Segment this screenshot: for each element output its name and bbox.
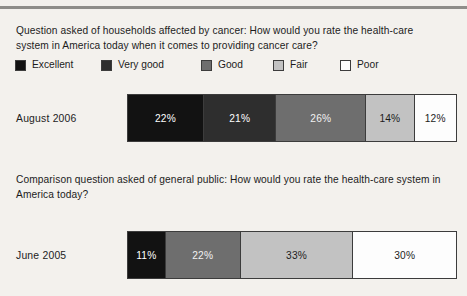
- legend-swatch-good-icon: [201, 60, 212, 71]
- top-divider-rule: [0, 6, 467, 9]
- legend-label-good: Good: [218, 59, 243, 71]
- bar-segment-value: 14%: [379, 113, 400, 124]
- bar-segment-good: 26%: [276, 95, 366, 141]
- row-label-august-2006: August 2006: [16, 94, 77, 142]
- chart-row-june-2005: June 2005 11%22%33%30%: [0, 231, 467, 279]
- legend-item-excellent: Excellent: [15, 59, 73, 71]
- bar-segment-fair: 33%: [241, 232, 354, 278]
- bar-segment-fair: 14%: [366, 95, 414, 141]
- legend: Excellent Very good Good Fair Poor: [15, 59, 455, 75]
- bar-segment-value: 30%: [394, 250, 415, 261]
- stacked-bar-august-2006: 22%21%26%14%12%: [127, 94, 457, 142]
- legend-swatch-poor-icon: [340, 60, 351, 71]
- bar-segment-poor: 12%: [415, 95, 456, 141]
- bar-segment-value: 26%: [310, 113, 331, 124]
- bar-segment-value: 21%: [229, 113, 250, 124]
- legend-item-very-good: Very good: [101, 59, 164, 71]
- legend-label-very-good: Very good: [118, 59, 164, 71]
- legend-swatch-very-good-icon: [101, 60, 112, 71]
- stacked-bar-june-2005: 11%22%33%30%: [127, 231, 457, 279]
- chart-row-august-2006: August 2006 22%21%26%14%12%: [0, 94, 467, 142]
- legend-item-fair: Fair: [273, 59, 308, 71]
- bar-segment-value: 22%: [155, 113, 176, 124]
- legend-label-excellent: Excellent: [32, 59, 73, 71]
- bar-segment-excellent: 11%: [128, 232, 166, 278]
- bar-segment-value: 11%: [136, 250, 156, 261]
- question-2-text: Comparison question asked of general pub…: [16, 173, 446, 202]
- question-1-text: Question asked of households affected by…: [16, 24, 446, 53]
- bar-segment-value: 33%: [286, 250, 307, 261]
- bar-segment-value: 12%: [425, 113, 446, 124]
- legend-item-good: Good: [201, 59, 243, 71]
- bar-segment-good: 22%: [166, 232, 241, 278]
- bar-segment-excellent: 22%: [128, 95, 204, 141]
- legend-label-poor: Poor: [357, 59, 379, 71]
- row-label-june-2005: June 2005: [16, 231, 66, 279]
- legend-swatch-excellent-icon: [15, 60, 26, 71]
- legend-label-fair: Fair: [290, 59, 308, 71]
- figure-container: Question asked of households affected by…: [0, 0, 467, 296]
- bar-segment-poor: 30%: [353, 232, 456, 278]
- legend-swatch-fair-icon: [273, 60, 284, 71]
- legend-item-poor: Poor: [340, 59, 379, 71]
- bar-segment-very-good: 21%: [204, 95, 277, 141]
- bar-segment-value: 22%: [192, 250, 213, 261]
